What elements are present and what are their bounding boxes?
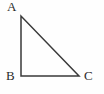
vertex-label-b: B — [6, 69, 15, 82]
vertex-label-c: C — [84, 69, 93, 82]
triangle-diagram: A B C — [0, 0, 104, 94]
triangle-outline — [21, 16, 79, 76]
vertex-label-a: A — [7, 0, 16, 13]
